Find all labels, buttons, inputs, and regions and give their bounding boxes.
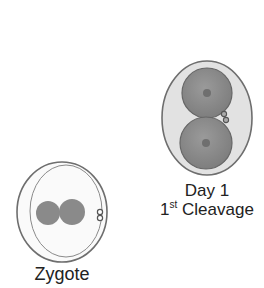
cleavage-label: 1st Cleavage xyxy=(150,200,264,219)
nucleus-icon xyxy=(203,89,211,97)
embryo-diagram xyxy=(0,0,264,288)
zygote-illustration xyxy=(17,162,107,262)
polar-body-icon xyxy=(97,215,102,220)
two-cell-embryo-illustration xyxy=(162,61,252,175)
day1-label: Day 1 1st Cleavage xyxy=(150,181,264,219)
polar-body-icon xyxy=(223,117,228,122)
polar-body-icon xyxy=(221,111,226,116)
polar-body-icon xyxy=(97,209,102,214)
day-label: Day 1 xyxy=(150,181,264,200)
pronucleus-icon xyxy=(36,201,60,225)
zygote-label: Zygote xyxy=(12,265,112,284)
nucleus-icon xyxy=(202,139,210,147)
pronucleus-icon xyxy=(59,199,85,225)
